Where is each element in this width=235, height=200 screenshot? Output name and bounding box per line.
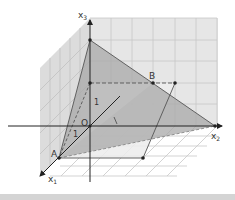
top-vertex-point [88, 38, 92, 42]
point-a [57, 156, 61, 160]
origin-label: O [81, 118, 88, 128]
point-a-label: A [51, 149, 58, 159]
point-b-label: B [149, 71, 155, 81]
x3-unit-label: 1 [94, 98, 99, 107]
x1-unit-label: 1 [73, 130, 78, 139]
x2-axis-label: x2 [211, 131, 220, 142]
point-x2-tip [213, 124, 217, 128]
coordinate-diagram: x3 x2 x1 B A O 1 1 [0, 0, 235, 200]
footer-strip [0, 194, 235, 200]
x3-dashed-point [88, 81, 92, 85]
point-b [151, 81, 155, 85]
x3-axis-label: x3 [78, 10, 87, 21]
origin-point [89, 125, 92, 128]
point-b-right [173, 81, 177, 85]
point-a-right [141, 156, 145, 160]
